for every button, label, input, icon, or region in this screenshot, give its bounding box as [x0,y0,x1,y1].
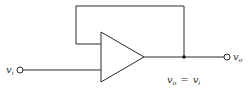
junction-dot [182,55,186,59]
output-terminal [224,54,230,60]
output-label: vo [233,51,243,63]
input-terminal [17,67,23,73]
voltage-follower-diagram: vi vo vo=vi [0,0,250,91]
equation-label: vo=vi [167,74,200,86]
op-amp-triangle [101,32,144,82]
input-label: vi [6,64,14,76]
